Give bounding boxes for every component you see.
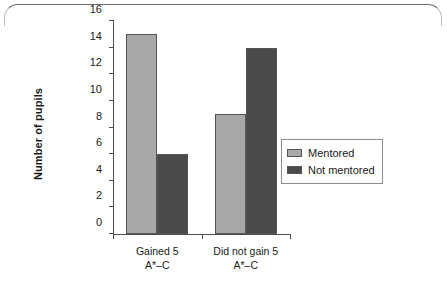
- legend-swatch-mentored: [287, 149, 302, 157]
- y-tick-6: 6: [109, 153, 113, 154]
- y-tick-label-16: 16: [90, 3, 102, 15]
- y-tick-label-0: 0: [96, 216, 102, 228]
- bar-mentored-group-2: [215, 114, 246, 234]
- y-tick-label-14: 14: [90, 30, 102, 42]
- y-axis-line: [113, 20, 114, 235]
- y-tick-8: 8: [109, 127, 113, 128]
- y-tick-16: 16: [109, 20, 113, 21]
- legend-item-mentored: Mentored: [287, 144, 375, 161]
- y-tick-12: 12: [109, 73, 113, 74]
- legend-swatch-not-mentored: [287, 166, 302, 174]
- y-axis-title: Number of pupils: [32, 54, 44, 214]
- y-tick-label-4: 4: [96, 163, 102, 175]
- legend-label-not-mentored: Not mentored: [308, 164, 375, 176]
- chart-legend: Mentored Not mentored: [281, 139, 383, 184]
- plot-area: 0246810121416 Gained 5A*–CDid not gain 5…: [113, 21, 290, 234]
- x-tick-1: [202, 234, 203, 239]
- y-tick-label-8: 8: [96, 110, 102, 122]
- y-tick-label-12: 12: [90, 56, 102, 68]
- y-tick-label-10: 10: [90, 83, 102, 95]
- y-tick-label-2: 2: [96, 189, 102, 201]
- y-tick-4: 4: [109, 180, 113, 181]
- bar-not-mentored-group-1: [157, 154, 188, 234]
- x-tick-2: [290, 234, 291, 239]
- y-tick-2: 2: [109, 206, 113, 207]
- y-tick-label-6: 6: [96, 136, 102, 148]
- x-tick-0: [113, 234, 114, 239]
- category-label-1: Gained 5A*–C: [136, 244, 179, 272]
- category-label-2: Did not gain 5A*–C: [213, 244, 278, 272]
- bar-not-mentored-group-2: [246, 48, 277, 234]
- legend-item-not-mentored: Not mentored: [287, 161, 375, 178]
- figure-page: Number of pupils 0246810121416 Gained 5A…: [0, 0, 447, 286]
- bar-mentored-group-1: [126, 34, 157, 234]
- bar-chart: Number of pupils 0246810121416 Gained 5A…: [0, 0, 447, 286]
- y-tick-10: 10: [109, 100, 113, 101]
- legend-label-mentored: Mentored: [308, 147, 354, 159]
- y-tick-14: 14: [109, 47, 113, 48]
